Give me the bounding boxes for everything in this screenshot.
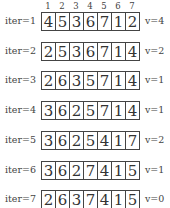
iteration-label: iter=2 (5, 45, 36, 56)
array-box: 3625417 (41, 131, 140, 150)
array-cell: 7 (98, 13, 112, 30)
index-label: 2 (55, 1, 69, 11)
array-cell: 2 (42, 191, 56, 208)
array-cell: 1 (112, 43, 126, 60)
array-box: 3625714 (41, 101, 140, 120)
array-cell: 5 (84, 102, 98, 119)
v-value: v=2 (145, 45, 164, 56)
array-cell: 1 (112, 13, 126, 30)
array-cell: 2 (126, 13, 139, 30)
array-box: 2635714 (41, 71, 140, 90)
array-cell: 4 (126, 102, 139, 119)
array-cell: 2 (70, 162, 84, 179)
array-box: 2637415 (41, 190, 140, 208)
array-cell: 2 (42, 43, 56, 60)
index-label: 1 (41, 1, 55, 11)
array-cell: 6 (56, 132, 70, 149)
iteration-label: iter=7 (5, 193, 36, 204)
array-cell: 3 (70, 13, 84, 30)
array-box: 3627415 (41, 161, 140, 180)
iteration-row: iter=43625714v=1 (0, 101, 170, 119)
array-cell: 3 (42, 102, 56, 119)
array-box: 4536712 (41, 12, 140, 31)
array-cell: 2 (70, 132, 84, 149)
array-cell: 3 (70, 43, 84, 60)
array-cell: 1 (112, 102, 126, 119)
iteration-label: iter=1 (5, 15, 36, 26)
iteration-label: iter=3 (5, 74, 36, 85)
v-value: v=2 (145, 134, 164, 145)
array-cell: 7 (98, 102, 112, 119)
array-cell: 5 (126, 162, 139, 179)
index-label: 5 (97, 1, 111, 11)
iteration-row: iter=53625417v=2 (0, 131, 170, 149)
index-label: 4 (83, 1, 97, 11)
array-cell: 2 (70, 102, 84, 119)
iteration-row: iter=63627415v=1 (0, 161, 170, 179)
iteration-row: iter=32635714v=1 (0, 71, 170, 89)
v-value: v=1 (145, 104, 164, 115)
array-cell: 4 (126, 72, 139, 89)
array-cell: 3 (42, 132, 56, 149)
array-cell: 4 (42, 13, 56, 30)
iteration-row: iter=22536714v=2 (0, 42, 170, 60)
array-cell: 3 (42, 162, 56, 179)
array-cell: 5 (126, 191, 139, 208)
index-label: 3 (69, 1, 83, 11)
array-cell: 4 (98, 191, 112, 208)
iteration-label: iter=4 (5, 104, 36, 115)
iteration-row: iter=14536712v=4 (0, 12, 170, 30)
array-cell: 1 (112, 132, 126, 149)
array-cell: 5 (56, 43, 70, 60)
array-cell: 6 (56, 72, 70, 89)
array-cell: 7 (84, 162, 98, 179)
array-cell: 7 (126, 132, 139, 149)
array-cell: 7 (84, 191, 98, 208)
array-cell: 4 (126, 43, 139, 60)
array-cell: 5 (84, 132, 98, 149)
index-label: 7 (125, 1, 139, 11)
array-cell: 1 (112, 162, 126, 179)
iteration-label: iter=5 (5, 134, 36, 145)
v-value: v=1 (145, 74, 164, 85)
index-labels: 1 2 3 4 5 6 7 (41, 1, 139, 11)
array-cell: 7 (98, 43, 112, 60)
array-cell: 7 (98, 72, 112, 89)
array-cell: 4 (98, 162, 112, 179)
array-cell: 5 (56, 13, 70, 30)
array-cell: 6 (56, 191, 70, 208)
array-box: 2536714 (41, 42, 140, 61)
array-cell: 6 (84, 13, 98, 30)
array-cell: 5 (84, 72, 98, 89)
index-label: 6 (111, 1, 125, 11)
iteration-row: iter=72637415v=0 (0, 190, 170, 208)
array-cell: 3 (70, 72, 84, 89)
array-cell: 1 (112, 191, 126, 208)
array-cell: 2 (42, 72, 56, 89)
array-cell: 3 (70, 191, 84, 208)
array-cell: 6 (84, 43, 98, 60)
array-cell: 6 (56, 102, 70, 119)
v-value: v=1 (145, 164, 164, 175)
v-value: v=0 (145, 193, 164, 204)
iteration-label: iter=6 (5, 164, 36, 175)
array-cell: 1 (112, 72, 126, 89)
v-value: v=4 (145, 15, 164, 26)
array-cell: 6 (56, 162, 70, 179)
array-cell: 4 (98, 132, 112, 149)
